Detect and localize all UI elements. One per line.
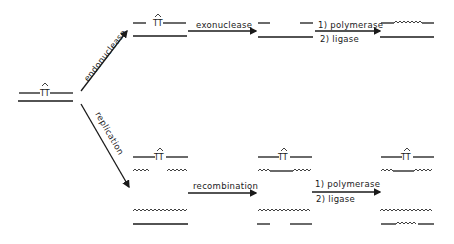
- polymerase-label: 1) polymerase: [315, 179, 380, 189]
- repair-diagram: TT endonuclease replication TT exonuclea…: [0, 0, 454, 244]
- dimer-bond-icon: [155, 14, 161, 17]
- recombination-label: recombination: [193, 181, 258, 191]
- dimer-label: TT: [39, 89, 50, 98]
- dimer-bond-icon: [157, 148, 163, 151]
- endonuclease-arrow: endonuclease: [81, 28, 128, 91]
- dimer-bond-icon: [404, 148, 410, 151]
- recombination-stage-2: TT: [257, 148, 312, 224]
- svg-text:TT: TT: [152, 19, 163, 28]
- svg-text:TT: TT: [153, 153, 164, 162]
- polymerase-ligase-arrow-top: 1) polymerase 2) ligase: [315, 20, 383, 44]
- recombination-stage-3: TT: [380, 148, 434, 224]
- excision-stage-2: [258, 23, 313, 37]
- polymerase-ligase-arrow-bottom: 1) polymerase 2) ligase: [312, 179, 380, 204]
- endonuclease-label: endonuclease: [82, 28, 128, 84]
- svg-text:TT: TT: [400, 153, 411, 162]
- exonuclease-arrow: exonuclease: [188, 20, 256, 31]
- start-duplex: TT: [18, 83, 73, 101]
- dimer-bond-icon: [281, 148, 287, 151]
- recombination-arrow: recombination: [188, 181, 258, 193]
- replication-arrow: replication: [81, 104, 129, 187]
- svg-text:TT: TT: [277, 153, 288, 162]
- ligase-label: 2) ligase: [316, 194, 355, 204]
- exonuclease-label: exonuclease: [196, 20, 252, 30]
- polymerase-label: 1) polymerase: [318, 20, 383, 30]
- ligase-label: 2) ligase: [320, 34, 359, 44]
- dimer-bond-icon: [42, 83, 48, 86]
- excision-stage-3: [380, 21, 434, 37]
- recombination-stage-1: TT: [133, 148, 188, 224]
- excision-stage-1: TT: [133, 14, 187, 36]
